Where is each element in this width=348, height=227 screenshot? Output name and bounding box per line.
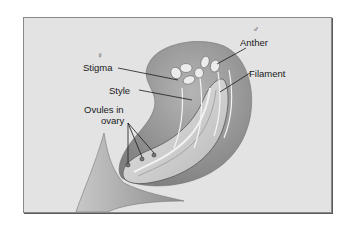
label-stigma: Stigma xyxy=(83,62,113,73)
flower-illustration xyxy=(24,18,331,212)
female-symbol-icon: ♀ xyxy=(97,51,103,60)
label-filament: Filament xyxy=(249,68,285,79)
label-ovules-line2: ovary xyxy=(101,115,124,126)
label-anther: Anther xyxy=(240,37,268,48)
diagram-frame: ♀ Stigma Style Ovules in ovary ♂ Anther … xyxy=(23,17,332,213)
male-symbol-icon: ♂ xyxy=(253,25,259,34)
label-ovules-line1: Ovules in xyxy=(84,104,124,115)
label-style: Style xyxy=(109,85,130,96)
